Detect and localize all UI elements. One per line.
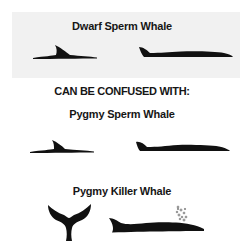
pygmy-killer-whale-back-profile-icon — [104, 204, 210, 238]
pygmy-sperm-whale-title: Pygmy Sperm Whale — [0, 108, 244, 120]
comparison-heading: CAN BE CONFUSED WITH: — [0, 85, 244, 97]
pygmy-killer-whale-title: Pygmy Killer Whale — [0, 185, 244, 197]
pygmy-sperm-whale-dorsal-fin-icon — [28, 138, 98, 156]
blow-spray-icon — [176, 206, 187, 221]
dwarf-sperm-whale-dorsal-fin-icon — [30, 44, 100, 62]
pygmy-killer-whale-tail-flukes-icon — [46, 203, 94, 243]
pygmy-sperm-whale-back-profile-icon — [133, 138, 233, 156]
dwarf-sperm-whale-back-profile-icon — [136, 44, 236, 62]
dwarf-sperm-whale-title: Dwarf Sperm Whale — [0, 20, 244, 32]
